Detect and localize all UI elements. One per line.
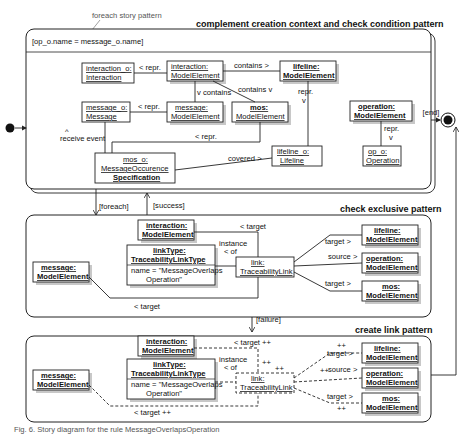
svg-text:v contains: v contains xyxy=(197,88,231,97)
p3-node-message: message: ModelElement xyxy=(33,370,92,393)
foreach-transition-label: [foreach] xyxy=(99,202,129,211)
svg-text:< target: < target xyxy=(134,302,161,311)
p2-node-lifeline: lifeline: ModelElement xyxy=(362,225,421,248)
svg-text:message:: message: xyxy=(175,103,208,112)
svg-text:mos:: mos: xyxy=(382,394,400,403)
svg-text:ModelElement: ModelElement xyxy=(171,112,220,121)
svg-text:name = "MessageOverlaps: name = "MessageOverlaps xyxy=(131,266,223,275)
svg-text:ModelElement: ModelElement xyxy=(366,291,418,300)
svg-text:operation:: operation: xyxy=(366,369,403,378)
svg-text:interaction:: interaction: xyxy=(171,62,208,71)
svg-text:name = "MessageOverlaps: name = "MessageOverlaps xyxy=(131,380,223,389)
svg-text:interaction_o:: interaction_o: xyxy=(86,64,132,73)
pattern-title-complement: complement creation context and check co… xyxy=(196,19,444,29)
svg-text:mos:: mos: xyxy=(250,103,268,112)
end-transition-label: [end] xyxy=(423,108,440,117)
p3-node-mos: mos: ModelElement xyxy=(362,393,421,416)
p1-node-message-o: message_o: Message xyxy=(82,102,130,122)
svg-text:++: ++ xyxy=(262,358,271,367)
svg-text:ModelElement: ModelElement xyxy=(142,346,194,355)
p3-node-linktype: linkType: TraceabilityLinkType name = "M… xyxy=(127,359,223,402)
svg-text:message:: message: xyxy=(41,263,76,272)
svg-text:< target: < target xyxy=(240,222,267,231)
svg-text:< of: < of xyxy=(224,363,238,372)
p1-node-operation: operation: ModelElement xyxy=(350,101,415,124)
p1-node-lifeline: lifeline: ModelElement xyxy=(280,61,339,84)
svg-text:receive event: receive event xyxy=(60,134,106,143)
svg-text:ModelElement: ModelElement xyxy=(354,111,406,120)
svg-text:TraceabilityLinkType: TraceabilityLinkType xyxy=(131,369,206,378)
p3-node-link: link: TraceabilityLink xyxy=(236,373,294,393)
p1-node-op-o: op_o: Operation xyxy=(363,146,401,166)
svg-text:repr.: repr. xyxy=(384,124,399,133)
svg-text:interaction:: interaction: xyxy=(146,337,187,346)
svg-text:message_o:: message_o: xyxy=(86,103,127,112)
svg-text:Specification: Specification xyxy=(113,173,161,182)
p2-node-operation: operation: ModelElement xyxy=(362,253,421,276)
svg-text:linkType:: linkType: xyxy=(153,360,186,369)
svg-text:contains >: contains > xyxy=(234,61,269,70)
p1-node-lifeline-o: lifeline_o: Lifeline xyxy=(272,146,322,166)
svg-text:operation:: operation: xyxy=(366,254,403,263)
svg-text:TraceabilityLink: TraceabilityLink xyxy=(240,267,293,276)
p3-node-interaction: interaction: ModelElement xyxy=(138,336,197,359)
svg-text:source >: source > xyxy=(328,252,358,261)
svg-text:check exclusive pattern: check exclusive pattern xyxy=(340,204,442,214)
p2-node-link: link: TraceabilityLink xyxy=(236,257,294,277)
pattern-title-create-link: create link pattern xyxy=(355,325,433,335)
p1-node-mos-o: mos_o: MessageOccurence Specification xyxy=(95,153,175,183)
start-node xyxy=(6,124,15,133)
svg-text:MessageOccurence: MessageOccurence xyxy=(101,164,169,173)
p2-node-mos: mos: ModelElement xyxy=(362,281,421,304)
svg-text:Lifeline: Lifeline xyxy=(280,156,304,165)
svg-text:message:: message: xyxy=(41,371,76,380)
svg-text:Operation": Operation" xyxy=(146,389,182,398)
svg-text:++: ++ xyxy=(275,364,284,373)
svg-text:covered >: covered > xyxy=(228,154,262,163)
svg-text:ModelElement: ModelElement xyxy=(366,353,418,362)
svg-text:Interaction: Interaction xyxy=(86,73,121,82)
svg-text:ModelElement: ModelElement xyxy=(283,71,335,80)
svg-text:repr.: repr. xyxy=(298,87,313,96)
svg-text:ModelElement: ModelElement xyxy=(366,403,418,412)
svg-text:< target ++: < target ++ xyxy=(234,338,272,347)
p1-node-mos: mos: ModelElement xyxy=(232,102,291,125)
svg-text:linkType:: linkType: xyxy=(153,246,186,255)
svg-text:TraceabilityLinkType: TraceabilityLinkType xyxy=(131,255,206,264)
svg-text:< repr.: < repr. xyxy=(139,63,161,72)
svg-text:++: ++ xyxy=(337,404,346,413)
p1-node-interaction-o: interaction_o: Interaction xyxy=(82,63,134,83)
svg-text:ModelElement: ModelElement xyxy=(366,235,418,244)
svg-text:target >: target > xyxy=(327,349,354,358)
svg-text:lifeline:: lifeline: xyxy=(293,62,320,71)
svg-text:mos_o:: mos_o: xyxy=(123,155,148,164)
success-transition-label: [success] xyxy=(153,201,185,210)
pattern-condition: [op_o.name = message_o.name] xyxy=(32,37,143,46)
svg-text:< of: < of xyxy=(224,247,238,256)
p2-node-message: message: ModelElement xyxy=(33,262,92,285)
svg-text:< repr.: < repr. xyxy=(195,132,217,141)
svg-text:source >: source > xyxy=(328,365,358,374)
p3-node-operation: operation: ModelElement xyxy=(362,368,421,391)
svg-text:link:: link: xyxy=(251,258,265,267)
svg-text:link:: link: xyxy=(251,374,265,383)
svg-text:v: v xyxy=(389,133,393,142)
p1-node-message: message: ModelElement xyxy=(167,102,226,125)
p3-node-lifeline: lifeline: ModelElement xyxy=(362,343,421,366)
svg-text:Operation: Operation xyxy=(366,156,399,165)
svg-text:ModelElement: ModelElement xyxy=(236,112,285,121)
p1-node-interaction: interaction: ModelElement xyxy=(167,61,226,84)
svg-text:Message: Message xyxy=(86,112,117,121)
svg-text:ModelElement: ModelElement xyxy=(171,71,220,80)
svg-text:ModelElement: ModelElement xyxy=(142,230,194,239)
figure-caption: Fig. 6. Story diagram for the rule Messa… xyxy=(14,425,220,434)
svg-text:target >: target > xyxy=(327,392,354,401)
svg-text:interaction:: interaction: xyxy=(146,221,187,230)
story-diagram: foreach story pattern complement creatio… xyxy=(0,0,467,434)
svg-text:v: v xyxy=(302,96,306,105)
svg-text:operation:: operation: xyxy=(358,102,395,111)
svg-text:ModelElement: ModelElement xyxy=(366,378,418,387)
svg-text:ModelElement: ModelElement xyxy=(37,380,89,389)
svg-text:contains v: contains v xyxy=(238,85,272,94)
svg-text:op_o:: op_o: xyxy=(368,147,387,156)
